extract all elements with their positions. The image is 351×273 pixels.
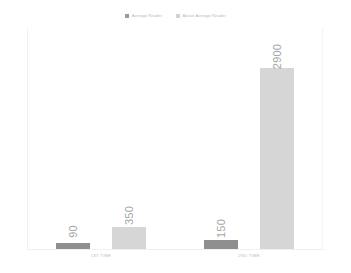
bar-value-label: 350 (124, 206, 135, 225)
bar-value-label: 150 (216, 219, 227, 238)
x-axis-label-2nd-time: 2ND TIME (175, 252, 323, 262)
bars-layer: 90 350 150 2900 (27, 28, 323, 249)
bar-slot: 90 (56, 28, 90, 249)
bar-value-label: 2900 (272, 44, 283, 69)
x-axis-line (27, 249, 324, 250)
bar-above-average-reader-1st-time[interactable] (112, 227, 146, 249)
legend-swatch-icon (125, 14, 129, 18)
bar-group-1st-time: 90 350 (27, 28, 175, 249)
legend-item-above-average-reader[interactable]: Above Average Reader (176, 11, 226, 21)
x-axis-label-1st-time: 1ST TIME (27, 252, 175, 262)
bar-slot: 350 (112, 28, 146, 249)
chart-legend: Average Reader Above Average Reader (0, 11, 351, 21)
legend-item-average-reader[interactable]: Average Reader (125, 11, 162, 21)
legend-item-label: Above Average Reader (183, 13, 226, 19)
bar-average-reader-2nd-time[interactable] (204, 240, 238, 249)
bar-value-label: 90 (68, 225, 79, 238)
bar-group-2nd-time: 150 2900 (175, 28, 323, 249)
bar-slot: 2900 (260, 28, 294, 249)
bar-average-reader-1st-time[interactable] (56, 243, 90, 249)
x-axis-category-labels: 1ST TIME 2ND TIME (27, 252, 323, 262)
bar-chart: Average Reader Above Average Reader 90 3… (0, 0, 351, 273)
bar-above-average-reader-2nd-time[interactable] (260, 68, 294, 249)
legend-item-label: Average Reader (132, 13, 162, 19)
bar-slot: 150 (204, 28, 238, 249)
legend-swatch-icon (176, 14, 180, 18)
